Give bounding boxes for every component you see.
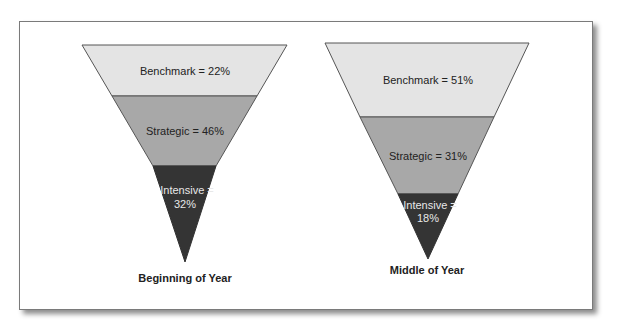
label-benchmark: Benchmark = 22% [140,65,230,77]
label-strategic: Strategic = 31% [389,150,467,162]
caption-middle-of-year: Middle of Year [327,264,527,276]
label-intensive-line2: 32% [174,198,196,210]
label-intensive-line1: Intensive = [160,184,214,196]
label-intensive-line1: Intensive = [403,199,457,211]
caption-beginning-of-year: Beginning of Year [85,272,285,284]
label-intensive-line2: 18% [417,212,439,224]
funnel-middle-of-year: Benchmark = 51% Strategic = 31% Intensiv… [325,43,529,259]
label-strategic: Strategic = 46% [146,125,224,137]
label-benchmark: Benchmark = 51% [383,74,473,86]
segment-intensive [153,166,216,262]
funnel-beginning-of-year: Benchmark = 22% Strategic = 46% Intensiv… [82,45,287,262]
